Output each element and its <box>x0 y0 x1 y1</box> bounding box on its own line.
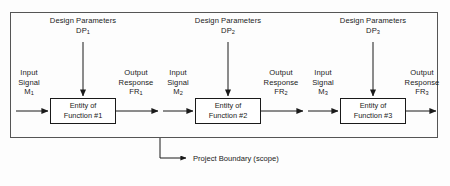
dp-subscript-1: 1 <box>87 29 90 35</box>
output-symbol-1: FR <box>129 87 139 96</box>
input-subscript-3: 3 <box>325 90 328 96</box>
design-parameters-label-1: Design Parameters DP1 <box>23 16 143 37</box>
entity-line2-1: Function #1 <box>64 111 103 120</box>
project-boundary-label: Project Boundary (scope) <box>193 154 279 163</box>
input-line1-3: Input <box>314 68 331 77</box>
input-subscript-1: 1 <box>31 90 34 96</box>
input-signal-label-2: Input Signal M2 <box>157 68 199 99</box>
dp-symbol-3: DP <box>366 26 377 35</box>
input-line2-1: Signal <box>18 78 40 87</box>
output-subscript-2: 2 <box>285 90 288 96</box>
entity-line2-3: Function #3 <box>354 111 393 120</box>
output-response-label-1: Output Response FR1 <box>110 68 162 99</box>
input-line2-2: Signal <box>167 78 189 87</box>
dp-title-2: Design Parameters <box>195 16 261 25</box>
dp-symbol-2: DP <box>221 26 232 35</box>
input-line1-1: Input <box>20 68 37 77</box>
input-line2-3: Signal <box>312 78 334 87</box>
entity-box-label-3: Entity of Function #3 <box>340 101 406 121</box>
dp-symbol-1: DP <box>76 26 87 35</box>
output-line1-2: Output <box>269 68 292 77</box>
input-line1-2: Input <box>169 68 186 77</box>
output-line1-1: Output <box>124 68 147 77</box>
output-line2-2: Response <box>264 78 299 87</box>
entity-line1-1: Entity of <box>70 101 97 110</box>
entity-box-label-2: Entity of Function #2 <box>195 101 261 121</box>
design-parameters-label-2: Design Parameters DP2 <box>168 16 288 37</box>
design-parameters-label-3: Design Parameters DP3 <box>313 16 433 37</box>
boundary-leader-line <box>160 138 186 158</box>
output-symbol-3: FR <box>415 87 425 96</box>
output-subscript-1: 1 <box>140 90 143 96</box>
output-response-label-3: Output Response FR3 <box>396 68 448 99</box>
entity-line1-3: Entity of <box>360 101 387 110</box>
diagram-canvas: Design Parameters DP1 Design Parameters … <box>0 0 450 186</box>
dp-subscript-3: 3 <box>377 29 380 35</box>
output-line2-1: Response <box>119 78 154 87</box>
output-response-label-2: Output Response FR2 <box>255 68 307 99</box>
input-signal-label-1: Input Signal M1 <box>8 68 50 99</box>
output-line1-3: Output <box>410 68 433 77</box>
input-signal-label-3: Input Signal M3 <box>302 68 344 99</box>
entity-line1-2: Entity of <box>215 101 242 110</box>
output-symbol-2: FR <box>274 87 284 96</box>
input-subscript-2: 2 <box>180 90 183 96</box>
dp-title-3: Design Parameters <box>340 16 406 25</box>
entity-box-label-1: Entity of Function #1 <box>50 101 116 121</box>
entity-line2-2: Function #2 <box>209 111 248 120</box>
dp-subscript-2: 2 <box>232 29 235 35</box>
output-subscript-3: 3 <box>426 90 429 96</box>
output-line2-3: Response <box>405 78 440 87</box>
dp-title-1: Design Parameters <box>50 16 116 25</box>
